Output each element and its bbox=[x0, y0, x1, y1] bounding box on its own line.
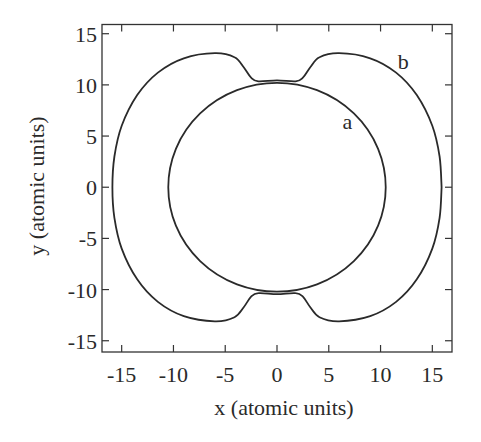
x-tick-label: -5 bbox=[216, 362, 234, 387]
orbit-chart: -15-10-5051015151050-5-10-15 a b x (atom… bbox=[0, 0, 481, 442]
y-axis-title: y (atomic units) bbox=[24, 116, 49, 255]
x-tick-label: 10 bbox=[370, 362, 392, 387]
curve-b-label: b bbox=[398, 49, 409, 74]
y-tick-label: -5 bbox=[79, 226, 97, 251]
curve-b bbox=[112, 53, 441, 321]
tick-labels: -15-10-5051015151050-5-10-15 bbox=[68, 22, 444, 387]
x-tick-label: 5 bbox=[323, 362, 334, 387]
plot-curves bbox=[112, 53, 441, 321]
curve-a bbox=[168, 83, 385, 292]
y-tick-label: -10 bbox=[68, 278, 97, 303]
y-tick-label: 5 bbox=[86, 124, 97, 149]
y-tick-label: 0 bbox=[86, 175, 97, 200]
x-tick-label: -15 bbox=[107, 362, 136, 387]
y-tick-label: 10 bbox=[75, 73, 97, 98]
y-tick-label: -15 bbox=[68, 329, 97, 354]
curve-a-label: a bbox=[343, 109, 353, 134]
x-tick-label: 15 bbox=[421, 362, 443, 387]
y-tick-label: 15 bbox=[75, 22, 97, 47]
x-tick-label: -10 bbox=[159, 362, 188, 387]
x-tick-label: 0 bbox=[272, 362, 283, 387]
x-axis-title: x (atomic units) bbox=[214, 395, 353, 420]
